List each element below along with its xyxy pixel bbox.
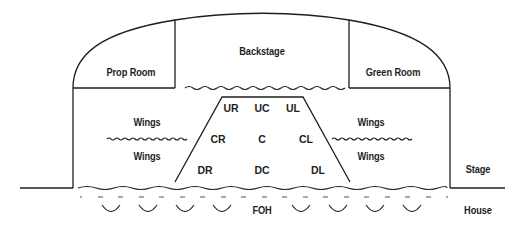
seat-icon [102,205,120,212]
center-left-label: CL [299,133,313,145]
center-right-label: CR [211,133,226,145]
downstage-right-label: DR [198,164,213,176]
left-wings-upper-label: Wings [133,116,160,128]
green-room-label: Green Room [366,66,421,78]
seat-icon [213,205,231,212]
backstage-curtain-line [185,87,345,90]
downstage-left-label: DL [311,164,325,176]
center-label: C [258,133,265,145]
seat-icon [292,205,310,212]
seat-icon [403,205,421,212]
seat-icon [329,205,347,212]
upstage-right-label: UR [224,102,239,114]
downstage-center-label: DC [255,164,270,176]
seat-icon [139,205,157,212]
stage-front-curtain-line [78,187,447,190]
seat-icon [366,205,384,212]
upstage-left-label: UL [286,102,300,114]
foh-label: FOH [252,204,271,216]
prop-room-label: Prop Room [106,66,155,78]
house-label: House [464,204,492,216]
right-wings-curtain-line [332,138,412,140]
right-wings-upper-label: Wings [357,116,384,128]
right-wings-lower-label: Wings [357,150,384,162]
stage-label: Stage [466,163,491,175]
seat-icon [176,205,194,212]
left-wings-curtain-line [107,138,187,140]
backstage-label: Backstage [239,45,284,57]
upstage-center-label: UC [255,102,270,114]
left-wings-lower-label: Wings [133,150,160,162]
